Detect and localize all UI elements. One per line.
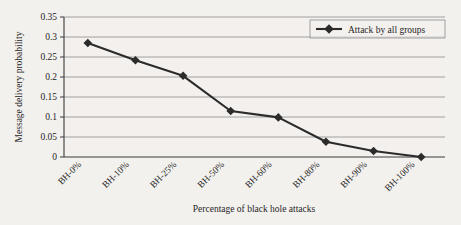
y-tick-label-7: 0.35 — [40, 12, 57, 22]
line-chart: 00.050.10.150.20.250.30.35 BH-0%BH-10%BH… — [0, 0, 461, 225]
chart-container: 00.050.10.150.20.250.30.35 BH-0%BH-10%BH… — [0, 0, 461, 225]
x-tick-label-4: BH-60% — [243, 159, 274, 190]
y-tick-label-3: 0.15 — [40, 92, 57, 102]
x-tick-label-7: BH-100% — [383, 159, 417, 193]
y-tick-label-6: 0.3 — [45, 32, 57, 42]
y-tick-label-1: 0.05 — [40, 132, 57, 142]
x-axis-title: Percentage of black hole attacks — [193, 204, 316, 214]
x-axis-category-labels: BH-0%BH-10%BH-25%BH-50%BH-60%BH-80%BH-90… — [56, 159, 417, 193]
y-tick-label-4: 0.2 — [45, 72, 57, 82]
x-tick-label-0: BH-0% — [56, 159, 83, 186]
y-axis-tickmarks — [60, 17, 64, 157]
y-axis-title: Message delivery probability — [14, 31, 24, 142]
x-tick-label-2: BH-25% — [148, 159, 179, 190]
legend: Attack by all groups — [310, 20, 445, 38]
x-tick-label-5: BH-80% — [291, 159, 322, 190]
x-tick-label-1: BH-10% — [100, 159, 131, 190]
x-tick-label-6: BH-90% — [339, 159, 370, 190]
y-tick-label-0: 0 — [52, 152, 57, 162]
y-tick-label-2: 0.1 — [45, 112, 57, 122]
legend-label-0: Attack by all groups — [348, 25, 426, 35]
x-tick-label-3: BH-50% — [196, 159, 227, 190]
y-tick-label-5: 0.25 — [40, 52, 57, 62]
y-axis-tick-labels: 00.050.10.150.20.250.30.35 — [40, 12, 57, 162]
